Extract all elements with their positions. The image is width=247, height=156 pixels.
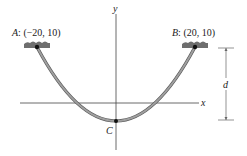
pin-a-icon: [35, 45, 39, 49]
point-c-label: C: [106, 125, 113, 136]
support-b: [182, 42, 208, 50]
support-a-label: A: (−20, 10): [11, 27, 61, 39]
support-a: [24, 42, 50, 50]
pin-b-icon: [193, 45, 197, 49]
y-axis-label: y: [112, 3, 118, 14]
cable-diagram: y x A: (−20, 10) B: (20, 10) C d: [0, 0, 247, 156]
support-b-label: B: (20, 10): [172, 27, 215, 39]
x-axis-label: x: [200, 97, 206, 108]
dimension-d-label: d: [223, 79, 229, 90]
point-c-icon: [114, 119, 118, 123]
